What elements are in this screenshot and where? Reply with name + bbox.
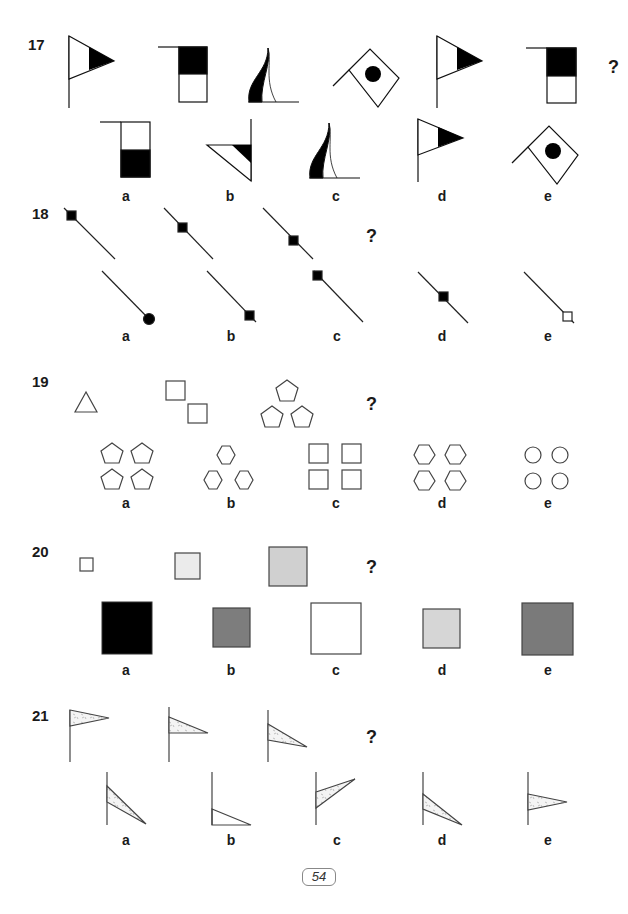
q20-option-label-d[interactable]: d: [432, 662, 452, 678]
q17-option-label-a[interactable]: a: [116, 188, 136, 204]
q18-choice-c-line-icon[interactable]: [313, 271, 363, 322]
q17-option-label-d[interactable]: d: [432, 188, 452, 204]
q17-seq-4-diamond-flag-icon: [333, 49, 399, 107]
q17-seq-2-square-flag-icon: [158, 47, 207, 102]
q21-option-label-b[interactable]: b: [221, 832, 241, 848]
q18-seq-3-line-icon: [263, 208, 313, 259]
q19-option-label-b[interactable]: b: [221, 495, 241, 511]
q18-option-label-c[interactable]: c: [327, 328, 347, 344]
q20-option-label-b[interactable]: b: [221, 662, 241, 678]
q19-option-label-a[interactable]: a: [116, 495, 136, 511]
question-mark-20: ?: [366, 557, 377, 578]
page-number: 54: [302, 868, 336, 886]
q19-choice-c-squares-icon[interactable]: [309, 444, 361, 489]
q21-option-label-d[interactable]: d: [432, 832, 452, 848]
q20-option-label-e[interactable]: e: [538, 662, 558, 678]
q21-seq-2-pennant-icon: [169, 707, 208, 762]
q19-choice-a-pentagons-icon[interactable]: [101, 443, 153, 489]
figures-canvas: [0, 0, 628, 914]
q19-option-label-d[interactable]: d: [432, 495, 452, 511]
q20-option-label-c[interactable]: c: [326, 662, 346, 678]
q18-option-label-a[interactable]: a: [116, 328, 136, 344]
q19-choice-b-hexagons-icon[interactable]: [204, 446, 253, 489]
q20-choice-c-square-icon[interactable]: [311, 603, 361, 654]
q18-choice-a-line-icon[interactable]: [102, 271, 155, 325]
q18-choice-e-line-icon[interactable]: [524, 272, 574, 323]
q17-option-label-e[interactable]: e: [538, 188, 558, 204]
q21-choice-a-pennant-icon[interactable]: [107, 772, 146, 825]
question-number-18: 18: [32, 205, 49, 222]
question-number-19: 19: [32, 373, 49, 390]
q20-choice-e-square-icon[interactable]: [522, 603, 573, 655]
question-number-20: 20: [32, 543, 49, 560]
q20-choice-d-square-icon[interactable]: [423, 609, 460, 648]
q19-option-label-e[interactable]: e: [538, 495, 558, 511]
question-number-17: 17: [28, 36, 45, 53]
q20-seq-3-square-icon: [269, 547, 307, 586]
q21-option-label-c[interactable]: c: [327, 832, 347, 848]
q21-choice-b-pennant-icon[interactable]: [212, 772, 251, 825]
question-mark-21: ?: [366, 727, 377, 748]
q17-seq-3-flame-flag-icon: [248, 48, 299, 102]
q18-seq-2-line-icon: [164, 208, 213, 259]
q17-choice-c-flame-flag-icon[interactable]: [309, 123, 360, 178]
q18-seq-1-line-icon: [64, 208, 115, 259]
q17-option-label-b[interactable]: b: [220, 188, 240, 204]
q21-seq-1-pennant-icon: [70, 710, 109, 762]
q17-choice-d-pennant-icon[interactable]: [418, 119, 463, 182]
q19-option-label-c[interactable]: c: [326, 495, 346, 511]
q21-choice-c-pennant-icon[interactable]: [316, 772, 355, 825]
q20-seq-1-square-icon: [80, 558, 93, 571]
q17-choice-b-triangle-flag-icon[interactable]: [207, 119, 251, 181]
question-mark-17: ?: [608, 57, 619, 78]
q17-seq-1-pennant-icon: [69, 36, 114, 108]
question-mark-19: ?: [366, 394, 377, 415]
q20-choice-b-square-icon[interactable]: [213, 608, 250, 647]
q21-choice-e-pennant-icon[interactable]: [528, 772, 567, 825]
q21-seq-3-pennant-icon: [268, 710, 307, 762]
q21-option-label-a[interactable]: a: [116, 832, 136, 848]
q17-seq-6-square-flag-icon: [526, 48, 576, 103]
q20-choice-a-square-icon[interactable]: [102, 602, 152, 654]
q18-option-label-e[interactable]: e: [538, 328, 558, 344]
q19-choice-e-circles-icon[interactable]: [525, 447, 568, 489]
q18-option-label-d[interactable]: d: [432, 328, 452, 344]
q18-option-label-b[interactable]: b: [221, 328, 241, 344]
q21-choice-d-pennant-icon[interactable]: [423, 772, 462, 825]
q18-choice-d-line-icon[interactable]: [418, 272, 468, 323]
q17-option-label-c[interactable]: c: [326, 188, 346, 204]
q19-seq-1-triangle-icon: [75, 392, 97, 412]
q19-seq-3-pentagons-icon: [261, 380, 313, 427]
q19-choice-d-hexagons-icon[interactable]: [414, 445, 466, 490]
q18-choice-b-line-icon[interactable]: [207, 271, 256, 322]
q20-option-label-a[interactable]: a: [116, 662, 136, 678]
question-number-21: 21: [32, 707, 49, 724]
q17-choice-e-diamond-flag-icon[interactable]: [512, 126, 578, 184]
q20-seq-2-square-icon: [175, 553, 200, 579]
question-mark-18: ?: [366, 226, 377, 247]
q19-seq-2-squares-icon: [166, 381, 207, 423]
q17-seq-5-pennant-icon: [437, 36, 482, 108]
q21-option-label-e[interactable]: e: [538, 832, 558, 848]
q17-choice-a-square-flag-icon[interactable]: [100, 122, 150, 177]
